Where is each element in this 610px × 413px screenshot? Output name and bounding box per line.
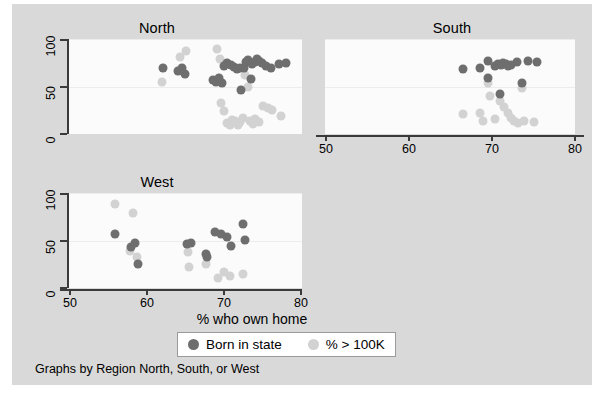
- data-point: [512, 57, 521, 66]
- data-point: [238, 269, 247, 278]
- legend-label-over-100k: % > 100K: [326, 337, 385, 352]
- data-point: [182, 47, 191, 56]
- x-tick-west-70: [223, 289, 225, 295]
- panel-north: [69, 39, 302, 134]
- plot-area-south: [325, 39, 575, 134]
- x-tick-label-west-70: 70: [217, 296, 231, 310]
- data-point: [203, 252, 212, 261]
- x-tick-west-80: [300, 289, 302, 295]
- data-point: [131, 239, 140, 248]
- legend-entry-over-100k[interactable]: % > 100K: [308, 337, 385, 352]
- data-point: [134, 260, 143, 269]
- gridline: [69, 39, 302, 40]
- y-tick-north-50: [60, 86, 67, 88]
- data-point: [268, 106, 277, 115]
- data-point: [532, 57, 541, 66]
- data-point: [212, 44, 221, 53]
- data-point: [458, 110, 467, 119]
- legend-marker-born-in-state: [188, 339, 199, 350]
- data-point: [110, 229, 119, 238]
- y-tick-north-0: [60, 133, 67, 135]
- y-tick-label-north-50: 50: [44, 80, 58, 106]
- y-tick-west-100: [60, 193, 67, 195]
- legend-label-born-in-state: Born in state: [206, 337, 282, 352]
- plot-area-north: [69, 39, 302, 134]
- data-point: [478, 116, 487, 125]
- data-point: [266, 64, 275, 73]
- data-point: [496, 90, 505, 99]
- x-axis-south: [316, 135, 584, 137]
- x-axis-west: [60, 289, 302, 291]
- panel-south: [325, 39, 575, 134]
- y-axis-west: [67, 193, 69, 288]
- data-point: [180, 70, 189, 79]
- x-tick-west-50: [69, 289, 71, 295]
- graph-canvas: North 100 50 0 South 50 60 70 80 West 10…: [12, 4, 592, 385]
- data-point: [476, 63, 485, 72]
- y-tick-west-50: [60, 240, 67, 242]
- x-tick-south-50: [325, 135, 327, 141]
- data-point: [459, 65, 468, 74]
- data-point: [517, 78, 526, 87]
- data-point: [158, 77, 167, 86]
- x-tick-label-west-60: 60: [140, 296, 154, 310]
- data-point: [225, 271, 234, 280]
- x-tick-label-south-60: 60: [402, 142, 416, 156]
- data-point: [218, 78, 227, 87]
- x-tick-south-60: [408, 135, 410, 141]
- data-point: [240, 235, 249, 244]
- x-tick-label-south-70: 70: [485, 142, 499, 156]
- data-point: [110, 200, 119, 209]
- y-tick-label-west-50: 50: [44, 234, 58, 260]
- gridline: [325, 87, 575, 88]
- legend: Born in state % > 100K: [177, 332, 396, 357]
- gridline: [69, 193, 302, 194]
- legend-marker-over-100k: [308, 339, 319, 350]
- data-point: [520, 116, 529, 125]
- y-tick-label-west-100: 100: [44, 187, 58, 213]
- x-tick-south-70: [491, 135, 493, 141]
- gridline: [325, 39, 575, 40]
- data-point: [186, 239, 195, 248]
- data-point: [129, 208, 138, 217]
- x-tick-label-south-80: 80: [568, 142, 582, 156]
- x-tick-south-80: [574, 135, 576, 141]
- panel-title-south: South: [312, 20, 592, 36]
- data-point: [158, 63, 167, 72]
- plot-area-west: [69, 193, 302, 288]
- y-tick-label-west-0: 0: [44, 281, 58, 307]
- x-tick-label-west-80: 80: [294, 296, 308, 310]
- gridline: [69, 87, 302, 88]
- data-point: [530, 117, 539, 126]
- y-tick-north-100: [60, 39, 67, 41]
- data-point: [491, 114, 500, 123]
- data-point: [238, 220, 247, 229]
- data-point: [223, 232, 232, 241]
- data-point: [246, 74, 255, 83]
- x-tick-label-south-50: 50: [319, 142, 333, 156]
- graph-caption: Graphs by Region North, South, or West: [35, 362, 259, 376]
- data-point: [484, 73, 493, 82]
- y-tick-label-north-100: 100: [44, 33, 58, 59]
- panel-west: [69, 193, 302, 288]
- data-point: [486, 92, 495, 101]
- x-tick-west-60: [146, 289, 148, 295]
- data-point: [227, 242, 236, 251]
- data-point: [184, 263, 193, 272]
- data-point: [277, 111, 286, 120]
- data-point: [237, 86, 246, 95]
- data-point: [254, 117, 263, 126]
- data-point: [183, 247, 192, 256]
- data-point: [220, 107, 229, 116]
- x-axis-title: % who own home: [12, 311, 492, 327]
- data-point: [282, 58, 291, 67]
- y-tick-label-north-0: 0: [44, 127, 58, 153]
- y-axis-north: [67, 39, 69, 134]
- legend-entry-born-in-state[interactable]: Born in state: [188, 337, 282, 352]
- x-tick-label-west-50: 50: [63, 296, 77, 310]
